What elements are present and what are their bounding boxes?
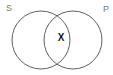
right-set-circle — [44, 11, 102, 69]
venn-svg: S P X — [0, 0, 113, 75]
right-set-label: P — [103, 4, 109, 14]
left-set-label: S — [6, 3, 12, 13]
venn-diagram: S P X — [0, 0, 113, 75]
intersection-label: X — [58, 32, 65, 43]
